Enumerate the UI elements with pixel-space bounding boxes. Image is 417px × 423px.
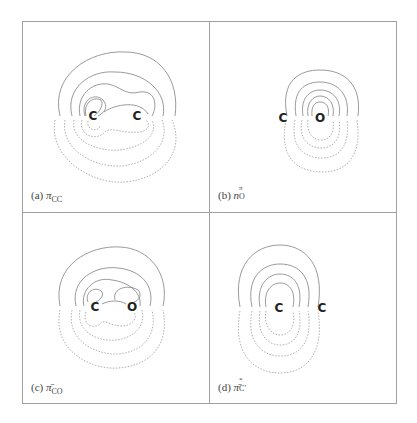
orbital-contour-figure: C C C O [0, 0, 417, 423]
panel-b-prefix: (b) [218, 189, 231, 201]
panel-b-superscript: π [239, 184, 243, 192]
panel-b-label: (b) nπO [218, 189, 247, 201]
panel-c-subscript: CO [51, 387, 62, 396]
panel-c-prefix: (c) [31, 381, 43, 393]
panel-d-atoms: C C [275, 301, 327, 315]
atom-label: C [89, 109, 98, 123]
panel-a-atoms: C C [89, 109, 142, 123]
panel-a-contours [54, 52, 176, 182]
panel-c-contours [59, 247, 164, 368]
atom-label: C [133, 109, 142, 123]
panel-c-label: (c) π̄CO [31, 381, 63, 396]
panel-a-prefix: (a) [31, 189, 43, 201]
atom-label: C [318, 301, 327, 315]
atom-label: C [279, 111, 288, 125]
panel-b-atoms: C O [279, 111, 326, 125]
panel-c-atoms: C O [91, 300, 138, 314]
panel-d-subscript: C' [239, 384, 246, 393]
atom-label: C [91, 300, 100, 314]
panel-a-subscript: CC [51, 195, 62, 204]
panel-d-superscript: * [239, 376, 243, 384]
panel-a-label: (a) πCC [31, 189, 62, 204]
panel-d-label: (d) π̄*C' [218, 381, 247, 393]
panel-b-subscript: O [239, 192, 245, 201]
atom-label: O [315, 111, 325, 125]
panel-d-prefix: (d) [218, 381, 231, 393]
atom-label: C [275, 301, 284, 315]
atom-label: O [127, 300, 137, 314]
figure-frame [22, 21, 397, 404]
